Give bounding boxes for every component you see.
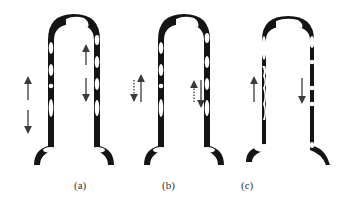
- panel-a-label: (a): [74, 179, 86, 191]
- panel-a: [28, 14, 114, 165]
- tube-b: [144, 14, 224, 165]
- tube-c: [246, 16, 330, 165]
- tube-a: [34, 14, 114, 165]
- panel-c-label: (c): [241, 179, 253, 191]
- panel-b: [134, 14, 224, 165]
- panel-b-label: (b): [162, 179, 175, 191]
- figure-canvas: [0, 0, 345, 201]
- panel-c: [246, 16, 330, 165]
